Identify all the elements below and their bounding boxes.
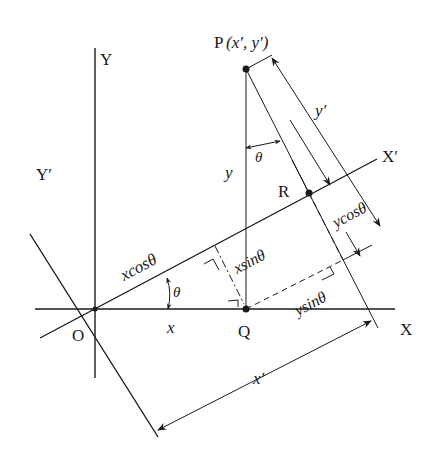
rotation-diagram: Y Y′ X′ X O P (x′, y′) Q R y x θ θ y′ x′…: [0, 0, 443, 472]
label-y-prime-length: y′: [313, 101, 327, 120]
right-angle-mark-q2: [228, 300, 238, 307]
top-tick: [246, 55, 272, 69]
label-point-p-coords: (x′, y′): [226, 33, 269, 52]
label-y: y: [223, 163, 233, 182]
label-point-p: P: [214, 33, 223, 52]
ycos-arrow-top: [290, 120, 330, 185]
point-p: [243, 66, 250, 73]
label-x: x: [166, 318, 175, 337]
label-theta-p: θ: [255, 149, 263, 165]
label-x-prime-axis: X′: [382, 147, 398, 166]
right-angle-mark-q: [204, 259, 219, 270]
theta-arrow-p: [246, 141, 280, 148]
ycos-end-tick: [343, 245, 372, 260]
label-point-q: Q: [238, 322, 250, 341]
label-x-prime-length: x′: [252, 369, 265, 388]
label-theta-origin: θ: [173, 284, 181, 300]
point-r: [306, 190, 313, 197]
label-origin: O: [72, 326, 84, 345]
right-angle-mark-r: [322, 267, 334, 280]
x-prime-axis: [40, 159, 377, 338]
theta-arc-origin: [167, 278, 170, 309]
label-point-r: R: [278, 182, 290, 201]
label-xsin: xsinθ: [230, 246, 269, 277]
point-q: [243, 306, 250, 313]
label-y-axis: Y: [100, 50, 112, 69]
label-y-prime-axis: Y′: [36, 165, 52, 184]
label-x-axis: X: [400, 320, 412, 339]
x-prime-dimension: [158, 321, 371, 430]
point-o: [93, 307, 98, 312]
label-ycos: ycosθ: [328, 199, 370, 233]
label-ysin: ysinθ: [290, 288, 330, 321]
label-xcos: xcosθ: [116, 250, 160, 285]
